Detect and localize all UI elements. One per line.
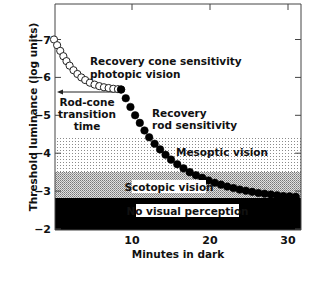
scotopic-label: Scotopic vision	[124, 181, 213, 193]
data-point-filled	[136, 119, 144, 127]
data-point-filled	[292, 193, 300, 201]
x-tick-label: 10	[124, 234, 140, 247]
rodcone-label-line1: Rod-cone	[59, 96, 114, 108]
data-point-filled	[122, 94, 130, 102]
x-tick-label: 20	[202, 234, 218, 247]
no-perception-label: No visual perception	[126, 205, 248, 217]
cone-label-line1: Recovery cone sensitivity	[90, 55, 242, 67]
data-point-filled	[131, 112, 139, 120]
x-tick-label: 30	[280, 234, 296, 247]
data-point-filled	[127, 103, 135, 111]
cone-label-line2: photopic vision	[90, 68, 180, 80]
data-point-filled	[151, 140, 159, 148]
y-tick-label: −2	[34, 223, 51, 236]
mesoptic-label: Mesoptic vision	[176, 146, 268, 158]
rod-label-line1: Recovery	[152, 107, 207, 119]
dark-adaptation-chart: −7−6−5−4−3−2 102030 Recovery cone sensit…	[0, 0, 317, 284]
x-axis-label: Minutes in dark	[132, 248, 226, 260]
y-axis-label: Threshold luminance (log units)	[27, 23, 39, 212]
data-point-filled	[145, 133, 153, 141]
data-point-filled	[141, 127, 149, 135]
rodcone-label-line3: time	[74, 120, 101, 132]
rodcone-label-line2: transition	[58, 108, 116, 120]
data-point-filled	[117, 86, 125, 94]
rod-label-line2: rod sensitivity	[152, 119, 237, 131]
